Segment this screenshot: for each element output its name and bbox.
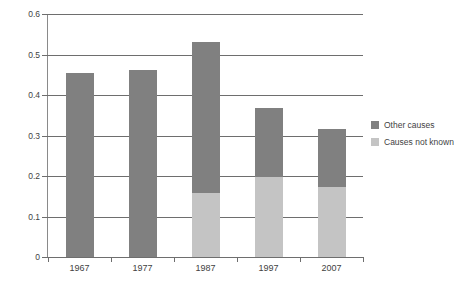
gridline xyxy=(48,257,363,258)
x-axis-tick-label: 2007 xyxy=(321,263,341,273)
bar-group xyxy=(66,14,94,257)
y-axis-tick xyxy=(42,217,48,218)
y-axis-tick xyxy=(42,136,48,137)
x-axis-tick-label: 1967 xyxy=(69,263,89,273)
x-axis-tick-label: 1977 xyxy=(132,263,152,273)
chart-legend: Other causesCauses not known xyxy=(371,120,454,154)
legend-item: Other causes xyxy=(371,120,454,130)
bar-group xyxy=(192,14,220,257)
bar-segment xyxy=(318,129,346,187)
x-axis-tick xyxy=(237,257,238,262)
bar-segment xyxy=(255,108,283,177)
bar-group xyxy=(129,14,157,257)
bar-segment xyxy=(66,73,94,257)
x-axis-tick-label: 1997 xyxy=(258,263,278,273)
y-axis-tick xyxy=(42,14,48,15)
legend-label: Causes not known xyxy=(384,137,454,147)
y-axis-tick-label: 0.4 xyxy=(28,90,40,100)
plot-area xyxy=(48,14,363,257)
x-axis-tick xyxy=(48,257,49,262)
y-axis-tick xyxy=(42,176,48,177)
y-axis-tick-label: 0 xyxy=(35,252,40,262)
x-axis-tick-label: 1987 xyxy=(195,263,215,273)
x-axis-tick xyxy=(300,257,301,262)
y-axis-tick xyxy=(42,95,48,96)
bar-group xyxy=(255,14,283,257)
y-axis-tick-label: 0.5 xyxy=(28,50,40,60)
x-axis-tick xyxy=(363,257,364,262)
bar-group xyxy=(318,14,346,257)
bar-segment xyxy=(192,193,220,257)
bar-series-group xyxy=(48,14,363,257)
y-axis-tick-label: 0.2 xyxy=(28,171,40,181)
x-axis-tick xyxy=(111,257,112,262)
x-axis-tick xyxy=(174,257,175,262)
bar-segment xyxy=(192,42,220,193)
legend-swatch-icon xyxy=(371,121,379,129)
bar-segment xyxy=(318,187,346,257)
bar-segment xyxy=(129,70,157,258)
legend-label: Other causes xyxy=(384,120,435,130)
y-axis-tick-label: 0.3 xyxy=(28,131,40,141)
y-axis-tick-label: 0.1 xyxy=(28,212,40,222)
legend-swatch-icon xyxy=(371,138,379,146)
y-axis-tick-label: 0.6 xyxy=(28,9,40,19)
y-axis-labels: 00.10.20.30.40.50.6 xyxy=(0,0,40,286)
y-axis-tick xyxy=(42,55,48,56)
legend-item: Causes not known xyxy=(371,137,454,147)
bar-segment xyxy=(255,177,283,257)
